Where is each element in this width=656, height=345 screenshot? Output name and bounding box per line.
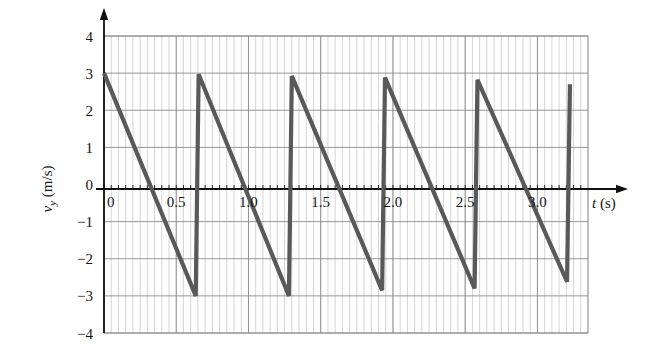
x-tick-label-1: 0.5 xyxy=(167,194,186,210)
y-tick-label-5: −1 xyxy=(77,214,93,230)
y-tick-label-8: −4 xyxy=(77,326,93,342)
x-tick-label-2: 1.0 xyxy=(239,194,258,210)
velocity-time-graph-figure: 00.51.01.52.02.53.043210−1−2−3−4t (s)vy … xyxy=(0,0,656,345)
y-tick-label-6: −2 xyxy=(77,251,93,267)
x-tick-label-4: 2.0 xyxy=(384,194,403,210)
y-tick-label-2: 2 xyxy=(86,103,94,119)
x-axis-title: t (s) xyxy=(592,195,616,212)
y-tick-label-7: −3 xyxy=(77,288,93,304)
chart-svg: 00.51.01.52.02.53.043210−1−2−3−4t (s)vy … xyxy=(0,0,656,345)
x-tick-label-3: 1.5 xyxy=(311,194,330,210)
y-tick-label-0: 4 xyxy=(86,29,94,45)
x-tick-label-6: 3.0 xyxy=(528,194,547,210)
x-tick-label-5: 2.5 xyxy=(456,194,475,210)
y-tick-label-4: 0 xyxy=(86,177,94,193)
x-tick-label-0: 0 xyxy=(107,194,115,210)
y-tick-label-1: 3 xyxy=(86,66,94,82)
y-tick-label-3: 1 xyxy=(86,140,94,156)
